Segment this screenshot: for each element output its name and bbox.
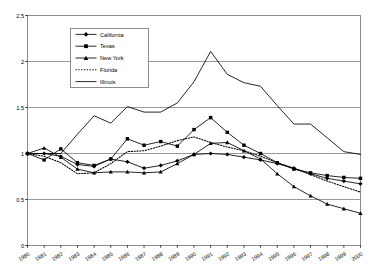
- legend-label: Illinois: [100, 79, 116, 85]
- data-point-marker: [109, 157, 112, 160]
- chart-legend: CaliforniaTexasNew YorkFloridaIllinois: [71, 29, 149, 88]
- data-point-marker: [326, 174, 329, 177]
- chart-container: 00.511.522.5 198019811982198319841985198…: [0, 0, 378, 270]
- legend-label: Florida: [100, 67, 118, 73]
- data-point-marker: [92, 164, 95, 167]
- data-point-marker: [226, 131, 229, 134]
- data-point-marker: [209, 116, 212, 119]
- data-point-marker: [359, 177, 362, 180]
- data-point-marker: [76, 161, 79, 164]
- data-point-marker: [176, 144, 179, 147]
- data-point-marker: [159, 140, 162, 143]
- y-tick-label: 2: [21, 59, 24, 65]
- legend-label: Texas: [100, 43, 115, 49]
- y-tick-label: 0.5: [16, 197, 24, 203]
- legend-label: California: [100, 32, 125, 38]
- data-point-marker: [342, 176, 345, 179]
- y-tick-label: 2.5: [16, 13, 24, 19]
- data-point-marker: [126, 137, 129, 140]
- line-chart: 00.511.522.5 198019811982198319841985198…: [0, 0, 378, 270]
- data-point-marker: [192, 128, 195, 131]
- data-point-marker: [259, 152, 262, 155]
- y-tick-label: 1: [21, 151, 24, 157]
- y-tick-label: 0: [21, 243, 24, 249]
- data-point-marker: [42, 158, 45, 161]
- data-point-marker: [242, 144, 245, 147]
- legend-label: New York: [100, 55, 124, 61]
- data-point-marker: [59, 147, 62, 150]
- data-point-marker: [142, 144, 145, 147]
- y-tick-label: 1.5: [16, 105, 24, 111]
- legend-marker-sample: [84, 44, 88, 48]
